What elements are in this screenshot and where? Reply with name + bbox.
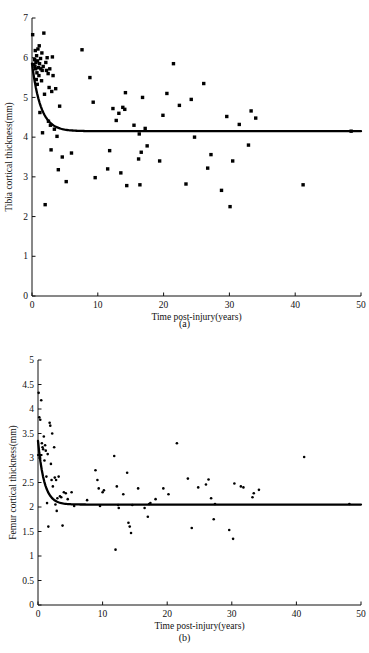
data-point xyxy=(51,74,54,77)
x-tick-label: 30 xyxy=(225,300,235,310)
data-point xyxy=(41,65,44,68)
x-axis-label: Time post-injury(years) xyxy=(154,621,244,632)
y-tick-label: 0 xyxy=(29,600,34,610)
data-point xyxy=(184,182,187,185)
data-point xyxy=(117,112,120,115)
data-point xyxy=(56,497,59,500)
data-point xyxy=(138,132,141,135)
data-point xyxy=(49,148,52,151)
data-point xyxy=(51,55,54,58)
y-tick-label: 7 xyxy=(23,13,28,23)
data-point xyxy=(176,442,179,445)
data-point xyxy=(113,455,116,458)
y-tick-label: 5 xyxy=(23,93,28,103)
x-tick-label: 10 xyxy=(98,609,108,619)
data-point xyxy=(158,159,161,162)
femur-scatter-plot: 00.511.522.533.544.5501020304050Time pos… xyxy=(0,340,369,653)
data-point xyxy=(258,489,261,492)
y-tick-label: 5 xyxy=(29,355,34,365)
data-point xyxy=(103,489,106,492)
data-point xyxy=(70,151,73,154)
data-point xyxy=(42,448,45,451)
data-point xyxy=(86,499,89,502)
data-point xyxy=(45,69,48,72)
x-tick-label: 40 xyxy=(290,300,300,310)
data-point xyxy=(172,62,175,65)
data-point xyxy=(190,98,193,101)
data-point xyxy=(145,144,148,147)
panel-b-femur: 00.511.522.533.544.5501020304050Time pos… xyxy=(0,340,369,653)
data-point xyxy=(39,418,42,421)
data-point xyxy=(116,485,119,488)
fitted-curve xyxy=(32,64,361,132)
data-point xyxy=(140,151,143,154)
data-point xyxy=(202,82,205,85)
data-point xyxy=(247,143,250,146)
data-point xyxy=(65,180,68,183)
data-point xyxy=(47,525,50,528)
data-point xyxy=(38,44,41,47)
x-tick-label: 0 xyxy=(30,300,35,310)
data-point xyxy=(45,475,48,478)
data-point xyxy=(97,487,100,490)
data-point xyxy=(233,482,236,485)
data-point xyxy=(46,72,49,75)
y-tick-label: 3 xyxy=(29,453,34,463)
data-point xyxy=(254,116,257,119)
y-tick-label: 0 xyxy=(23,291,28,301)
data-point xyxy=(303,456,306,459)
data-points-group xyxy=(37,392,350,551)
data-point xyxy=(53,128,56,131)
data-point xyxy=(167,493,170,496)
axis-frame xyxy=(32,18,361,296)
data-point xyxy=(161,114,164,117)
data-point xyxy=(38,111,41,114)
data-point xyxy=(252,492,255,495)
y-tick-label: 3.5 xyxy=(22,429,34,439)
data-point xyxy=(190,527,193,530)
data-point xyxy=(45,56,48,59)
data-point xyxy=(210,497,213,500)
data-point xyxy=(57,475,60,478)
data-point xyxy=(38,62,41,65)
data-point xyxy=(154,498,157,501)
y-tick-label: 6 xyxy=(23,53,28,63)
data-point xyxy=(111,107,114,110)
data-point xyxy=(39,57,42,60)
data-point xyxy=(193,135,196,138)
data-point xyxy=(50,90,53,93)
data-point xyxy=(228,205,231,208)
data-point xyxy=(51,432,54,435)
data-point xyxy=(130,532,133,535)
data-point xyxy=(108,149,111,152)
data-point xyxy=(47,86,50,89)
data-point xyxy=(43,203,46,206)
data-point xyxy=(37,392,40,395)
data-point xyxy=(64,492,67,495)
data-point xyxy=(40,51,43,54)
data-point xyxy=(41,442,44,445)
data-point xyxy=(125,184,128,187)
data-point xyxy=(138,183,141,186)
data-point xyxy=(36,47,39,50)
data-points-group xyxy=(31,31,353,208)
x-tick-label: 40 xyxy=(292,609,302,619)
y-tick-label: 2 xyxy=(23,212,28,222)
data-point xyxy=(197,486,200,489)
data-point xyxy=(207,478,210,481)
data-point xyxy=(50,463,53,466)
data-point xyxy=(137,487,140,490)
figure-container: 0123456701020304050Time post-injury(year… xyxy=(0,0,369,653)
y-tick-label: 1.5 xyxy=(22,527,34,537)
y-tick-label: 4 xyxy=(29,404,34,414)
fitted-curve xyxy=(38,441,361,505)
data-point xyxy=(178,104,181,107)
data-point xyxy=(122,493,125,496)
data-point xyxy=(132,124,135,127)
data-point xyxy=(40,69,43,72)
data-point xyxy=(43,435,46,438)
data-point xyxy=(50,479,53,482)
data-point xyxy=(238,123,241,126)
data-point xyxy=(128,525,131,528)
data-point xyxy=(114,548,117,551)
